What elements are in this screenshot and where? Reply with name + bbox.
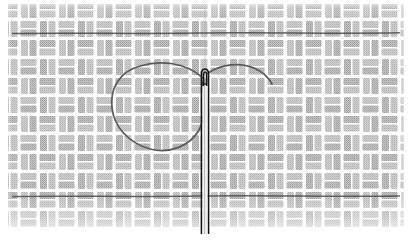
sewing-needle xyxy=(202,69,209,234)
upper-guide-thread xyxy=(12,33,400,34)
figure-caption xyxy=(0,225,412,241)
needle-shaft-body xyxy=(202,86,207,234)
stitch-diagram-figure xyxy=(0,0,412,241)
right-edge-fade xyxy=(398,0,412,241)
top-edge-fade xyxy=(0,0,412,8)
diagram-canvas xyxy=(0,0,412,241)
left-edge-fade xyxy=(0,0,12,241)
